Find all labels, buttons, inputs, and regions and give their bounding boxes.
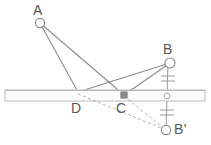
point-label-b-prime: B' (174, 122, 187, 136)
point-marker-midpoint (164, 93, 170, 99)
point-label-d: D (71, 101, 81, 115)
point-marker-a (35, 18, 44, 27)
point-label-b: B (163, 42, 173, 56)
solid-lines-group (40, 23, 170, 130)
point-marker-bprime (161, 125, 170, 134)
point-markers-group (35, 18, 175, 134)
mirror-bar-rect (5, 90, 205, 101)
mirror-bar (5, 90, 205, 101)
point-marker-b (165, 58, 175, 68)
point-label-a: A (33, 3, 43, 17)
geometry-diagram: A B B' D C (0, 0, 211, 145)
point-label-c: C (116, 101, 126, 115)
point-marker-c-square (121, 92, 127, 98)
segment-a-c (40, 23, 124, 95)
segment-a-d (40, 23, 78, 92)
